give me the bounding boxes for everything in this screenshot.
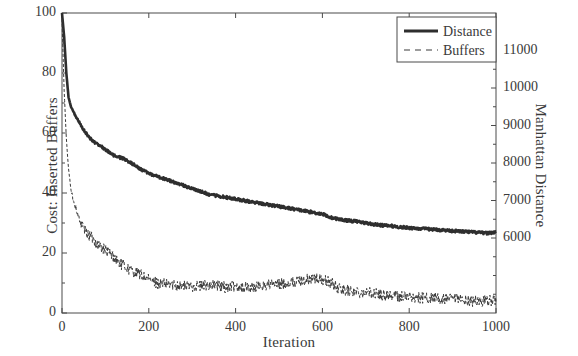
x-tick-label: 600	[292, 319, 352, 335]
x-tick-label: 1000	[466, 319, 526, 335]
legend-label-distance: Distance	[443, 24, 492, 39]
plot-canvas: Distance Buffers	[0, 0, 578, 356]
y-axis-left-title: Cost: Inserted Buffers	[44, 11, 61, 321]
y-axis-right-title: Manhattan Distance	[532, 11, 549, 321]
legend-label-buffers: Buffers	[443, 43, 485, 58]
x-tick-label: 200	[119, 319, 179, 335]
x-tick-label: 400	[206, 319, 266, 335]
chart-figure: Distance Buffers 02004006008001000020406…	[0, 0, 578, 356]
chart-legend: Distance Buffers	[397, 17, 496, 62]
x-tick-label: 800	[379, 319, 439, 335]
x-axis-title: Iteration	[0, 334, 578, 351]
x-tick-label: 0	[32, 319, 92, 335]
